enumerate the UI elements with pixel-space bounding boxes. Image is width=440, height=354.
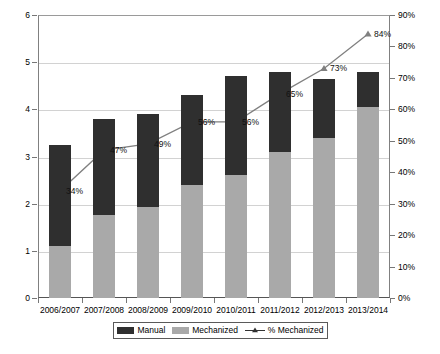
x-axis-tick-label: 2010/2011 — [214, 306, 258, 315]
y-axis-left-tick-label: 4 — [0, 105, 30, 114]
y-axis-left-tick-label: 6 — [0, 11, 30, 20]
y-axis-right-tick-label: 50% — [398, 137, 438, 146]
bar-segment-manual — [181, 95, 203, 185]
x-axis-tick-label: 2013/2014 — [346, 306, 390, 315]
bar-segment-mechanized — [357, 107, 379, 298]
x-axis-tick-label: 2011/2012 — [258, 306, 302, 315]
y-axis-right-tick-mark — [390, 46, 395, 47]
legend-label-mechanized: Mechanized — [192, 326, 238, 335]
x-axis-tick-mark — [346, 298, 347, 303]
y-axis-right-tick-mark — [390, 15, 395, 16]
y-axis-left-tick-mark — [32, 298, 37, 299]
bar-segment-manual — [313, 79, 335, 138]
x-axis-tick-mark — [258, 298, 259, 303]
bar-segment-mechanized — [181, 185, 203, 298]
data-point-value-label: 65% — [286, 90, 303, 99]
y-axis-left-tick-label: 1 — [0, 247, 30, 256]
x-axis-tick-label: 2006/2007 — [38, 306, 82, 315]
y-axis-right-tick-label: 90% — [398, 11, 438, 20]
legend-label-pct-mechanized: % Mechanized — [268, 326, 324, 335]
data-point-value-label: 49% — [154, 140, 171, 149]
gridline — [39, 158, 389, 159]
y-axis-left-tick-mark — [32, 251, 37, 252]
y-axis-left-tick-label: 0 — [0, 294, 30, 303]
gridline — [39, 205, 389, 206]
x-axis-tick-label: 2012/2013 — [302, 306, 346, 315]
square-dark-swatch-icon — [117, 327, 134, 334]
data-point-value-label: 84% — [374, 30, 391, 39]
y-axis-right-tick-label: 30% — [398, 200, 438, 209]
gridline — [39, 252, 389, 253]
bar-segment-manual — [269, 72, 291, 152]
y-axis-right-tick-mark — [390, 78, 395, 79]
bar-segment-mechanized — [49, 246, 71, 298]
legend-item-mechanized: Mechanized — [172, 326, 238, 335]
y-axis-left-tick-label: 5 — [0, 58, 30, 67]
bar-stack — [49, 145, 71, 298]
y-axis-right-tick-mark — [390, 141, 395, 142]
y-axis-right-tick-mark — [390, 204, 395, 205]
y-axis-right-tick-label: 70% — [398, 74, 438, 83]
y-axis-right-tick-label: 0% — [398, 294, 438, 303]
y-axis-right-tick-mark — [390, 235, 395, 236]
data-point-value-label: 47% — [110, 146, 127, 155]
bar-segment-mechanized — [269, 152, 291, 298]
y-axis-left-tick-mark — [32, 15, 37, 16]
x-axis-tick-mark — [82, 298, 83, 303]
x-axis-tick-mark — [38, 298, 39, 303]
bar-stack — [269, 72, 291, 298]
data-point-value-label: 56% — [198, 118, 215, 127]
x-axis-tick-mark — [302, 298, 303, 303]
y-axis-left-tick-mark — [32, 109, 37, 110]
data-point-value-label: 56% — [242, 118, 259, 127]
bar-segment-mechanized — [313, 138, 335, 298]
bar-segment-manual — [93, 119, 115, 216]
y-axis-left-tick-mark — [32, 62, 37, 63]
bar-segment-manual — [357, 72, 379, 107]
chart-container: Manual Mechanized % Mechanized 01234560%… — [0, 0, 440, 354]
y-axis-right-tick-mark — [390, 109, 395, 110]
bar-stack — [225, 76, 247, 298]
x-axis-tick-label: 2009/2010 — [170, 306, 214, 315]
y-axis-right-tick-label: 10% — [398, 263, 438, 272]
data-point-value-label: 34% — [66, 187, 83, 196]
x-axis-tick-mark — [170, 298, 171, 303]
bar-segment-mechanized — [225, 175, 247, 298]
x-axis-tick-mark — [126, 298, 127, 303]
y-axis-right-tick-label: 60% — [398, 105, 438, 114]
x-axis-tick-mark — [390, 298, 391, 303]
bar-segment-manual — [137, 114, 159, 207]
y-axis-right-tick-mark — [390, 172, 395, 173]
line-triangle-marker-icon — [245, 327, 265, 334]
bar-segment-mechanized — [93, 215, 115, 298]
data-point-value-label: 73% — [330, 64, 347, 73]
y-axis-left-tick-mark — [32, 157, 37, 158]
x-axis-tick-label: 2007/2008 — [82, 306, 126, 315]
bar-stack — [357, 72, 379, 298]
bar-segment-mechanized — [137, 207, 159, 298]
bar-stack — [313, 79, 335, 298]
y-axis-right-tick-label: 40% — [398, 168, 438, 177]
y-axis-left-tick-label: 2 — [0, 200, 30, 209]
square-gray-swatch-icon — [172, 327, 189, 334]
x-axis-tick-mark — [214, 298, 215, 303]
legend-item-pct-mechanized: % Mechanized — [245, 326, 324, 335]
x-axis-tick-label: 2008/2009 — [126, 306, 170, 315]
y-axis-right-tick-label: 80% — [398, 42, 438, 51]
legend-label-manual: Manual — [137, 326, 165, 335]
y-axis-right-tick-mark — [390, 267, 395, 268]
y-axis-left-tick-mark — [32, 204, 37, 205]
y-axis-left-tick-label: 3 — [0, 153, 30, 162]
y-axis-right-tick-label: 20% — [398, 231, 438, 240]
plot-area — [38, 15, 390, 298]
legend-item-manual: Manual — [117, 326, 165, 335]
chart-legend: Manual Mechanized % Mechanized — [113, 322, 328, 339]
gridline — [39, 110, 389, 111]
